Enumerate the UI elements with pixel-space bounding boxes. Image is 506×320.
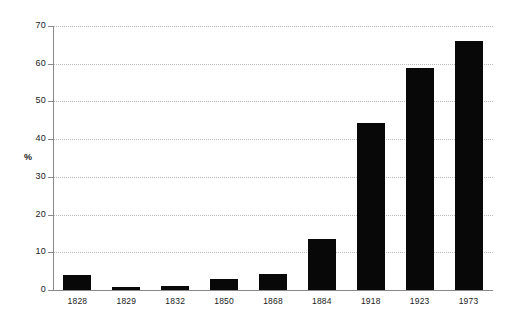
bar-1884 [308, 239, 336, 290]
bar-1832 [161, 286, 189, 290]
y-axis-tick-label-text: 40 [4, 133, 46, 143]
bar-1868 [259, 274, 287, 290]
bar-1923 [406, 68, 434, 291]
x-axis-line [53, 290, 493, 291]
y-axis-tick-label-text: 70 [4, 20, 46, 30]
y-axis-tick-label-text: 30 [4, 171, 46, 181]
y-axis-tick-label: 70 [0, 20, 46, 32]
y-axis-line [53, 26, 54, 290]
gridline [53, 64, 493, 65]
y-axis-tick-label-text: 0 [4, 284, 46, 294]
y-axis-tick-label-text: 20 [4, 209, 46, 219]
bar-1918 [357, 123, 385, 290]
gridline [53, 26, 493, 27]
y-axis-tick-label: 60 [0, 58, 46, 70]
y-axis-tick-label: 40 [0, 133, 46, 145]
y-axis-tick-label-text: 60 [4, 58, 46, 68]
bar-1850 [210, 279, 238, 290]
bar-1829 [112, 287, 140, 290]
bar-1973 [455, 41, 483, 290]
x-axis-tick-label: 1973 [439, 296, 499, 306]
y-axis-tick-label-text: 10 [4, 246, 46, 256]
bar-1828 [63, 275, 91, 290]
y-axis-tick-label-text: 50 [4, 95, 46, 105]
y-axis-tick-label: 0 [0, 284, 46, 296]
y-axis-title: % [24, 152, 32, 162]
y-axis-tick-label: 50 [0, 95, 46, 107]
y-axis-tick-label: 10 [0, 246, 46, 258]
bar-chart: 010203040506070 % 1828182918321850186818… [0, 0, 506, 320]
y-axis-tick-label: 20 [0, 209, 46, 221]
y-axis-tick-label: 30 [0, 171, 46, 183]
